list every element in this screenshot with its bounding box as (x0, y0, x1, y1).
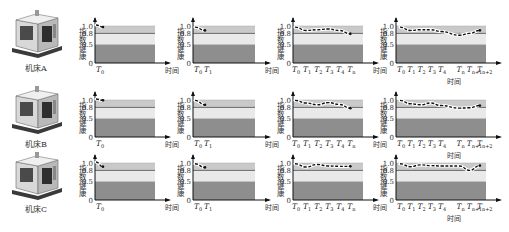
y-axis-label: 指数健康 (274, 28, 285, 60)
svg-text:T1: T1 (407, 65, 415, 75)
svg-text:T0: T0 (96, 139, 104, 149)
svg-text:时间: 时间 (447, 214, 461, 223)
svg-text:T2: T2 (314, 202, 322, 212)
svg-text:T1: T1 (303, 202, 311, 212)
svg-text:0: 0 (287, 60, 291, 68)
svg-text:T1: T1 (407, 139, 415, 149)
health-chart-机床A-stage-4: 1.00.80.50T0T1T2T3T4TnTn+1Tn+2时间指数健康 (376, 14, 506, 85)
y-axis-label: 指数健康 (377, 102, 388, 134)
machine-a-image (8, 8, 68, 60)
svg-text:Tn: Tn (456, 139, 465, 149)
svg-text:T4: T4 (336, 139, 344, 149)
health-chart-机床C-stage-2: 1.00.80.50T0T1时间指数健康 (173, 151, 275, 222)
svg-text:T0: T0 (292, 139, 300, 149)
svg-text:T3: T3 (325, 65, 333, 75)
svg-text:0: 0 (187, 197, 191, 205)
y-axis-label: 指数健康 (377, 28, 388, 60)
machine-b-label: 机床B (6, 138, 66, 149)
svg-text:T1: T1 (303, 65, 311, 75)
cnc-machine-icon (8, 84, 66, 136)
svg-text:T0: T0 (397, 65, 405, 75)
cnc-machine-icon (8, 150, 66, 202)
svg-text:T4: T4 (438, 202, 446, 212)
svg-text:T4: T4 (336, 65, 344, 75)
machine-a-label: 机床A (6, 62, 66, 73)
svg-text:T3: T3 (325, 139, 333, 149)
health-chart-机床B-stage-3: 1.00.80.50T0T1T2T3T4Tn时间指数健康 (273, 88, 383, 159)
svg-text:Tn: Tn (347, 65, 356, 75)
svg-text:0: 0 (89, 60, 93, 68)
svg-text:T0: T0 (96, 65, 104, 75)
svg-text:T2: T2 (417, 65, 425, 75)
machine-c-label: 机床C (6, 203, 66, 214)
svg-text:0: 0 (89, 197, 93, 205)
svg-text:0: 0 (187, 134, 191, 142)
svg-text:T0: T0 (194, 202, 202, 212)
health-chart-机床C-stage-1: 1.00.80.50T0时间指数健康 (75, 151, 175, 222)
y-axis-label: 指数健康 (174, 102, 185, 134)
svg-text:Tn+2: Tn+2 (477, 139, 493, 149)
y-axis-label: 指数健康 (174, 165, 185, 197)
y-axis-label: 指数健康 (274, 102, 285, 134)
svg-text:T1: T1 (303, 139, 311, 149)
svg-text:T4: T4 (438, 65, 446, 75)
health-chart-机床B-stage-2: 1.00.80.50T0T1时间指数健康 (173, 88, 275, 159)
svg-text:T1: T1 (204, 65, 212, 75)
health-chart-机床C-stage-3: 1.00.80.50T0T1T2T3T4Tn时间指数健康 (273, 151, 383, 222)
svg-text:T0: T0 (292, 65, 300, 75)
svg-text:T0: T0 (194, 139, 202, 149)
svg-text:0: 0 (287, 134, 291, 142)
svg-text:T0: T0 (96, 202, 104, 212)
health-chart-机床A-stage-3: 1.00.80.50T0T1T2T3T4Tn时间指数健康 (273, 14, 383, 85)
svg-text:0: 0 (390, 60, 394, 68)
svg-text:T0: T0 (397, 202, 405, 212)
health-chart-机床C-stage-4: 1.00.80.50T0T1T2T3T4TnTn+1Tn+2时间指数健康 (376, 151, 506, 222)
svg-text:T1: T1 (407, 202, 415, 212)
svg-text:T3: T3 (428, 65, 436, 75)
y-axis-label: 指数健康 (76, 28, 87, 60)
svg-text:0: 0 (287, 197, 291, 205)
svg-text:T2: T2 (314, 139, 322, 149)
svg-text:时间: 时间 (447, 77, 461, 86)
y-axis-label: 指数健康 (76, 165, 87, 197)
svg-text:T2: T2 (417, 202, 425, 212)
y-axis-label: 指数健康 (274, 165, 285, 197)
svg-text:T1: T1 (204, 139, 212, 149)
svg-text:Tn: Tn (347, 139, 356, 149)
health-chart-机床A-stage-1: 1.00.80.50T0时间指数健康 (75, 14, 175, 85)
health-chart-机床A-stage-2: 1.00.80.50T0T1时间指数健康 (173, 14, 275, 85)
svg-text:T2: T2 (417, 139, 425, 149)
svg-text:Tn: Tn (456, 65, 465, 75)
svg-text:Tn+2: Tn+2 (477, 65, 493, 75)
svg-text:T4: T4 (438, 139, 446, 149)
machine-c-image (8, 150, 68, 202)
svg-text:T1: T1 (204, 202, 212, 212)
svg-text:Tn: Tn (456, 202, 465, 212)
y-axis-label: 指数健康 (76, 102, 87, 134)
y-axis-label: 指数健康 (377, 165, 388, 197)
svg-text:0: 0 (390, 134, 394, 142)
svg-text:T3: T3 (325, 202, 333, 212)
svg-text:Tn: Tn (347, 202, 356, 212)
svg-text:T4: T4 (336, 202, 344, 212)
svg-text:T3: T3 (428, 202, 436, 212)
svg-text:T0: T0 (292, 202, 300, 212)
cnc-machine-icon (8, 8, 66, 60)
svg-text:0: 0 (390, 197, 394, 205)
svg-text:T0: T0 (194, 65, 202, 75)
svg-text:T2: T2 (314, 65, 322, 75)
y-axis-label: 指数健康 (174, 28, 185, 60)
svg-text:T3: T3 (428, 139, 436, 149)
svg-text:Tn+2: Tn+2 (477, 202, 493, 212)
health-chart-机床B-stage-4: 1.00.80.50T0T1T2T3T4TnTn+1Tn+2时间指数健康 (376, 88, 506, 159)
machine-b-image (8, 84, 68, 136)
svg-text:0: 0 (89, 134, 93, 142)
health-chart-机床B-stage-1: 1.00.80.50T0时间指数健康 (75, 88, 175, 159)
svg-text:0: 0 (187, 60, 191, 68)
svg-text:T0: T0 (397, 139, 405, 149)
